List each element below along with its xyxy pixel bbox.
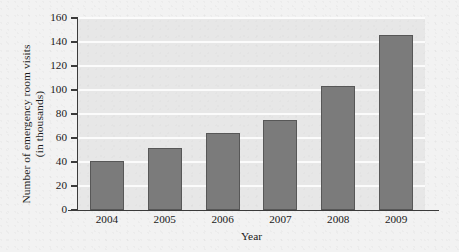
x-axis-tick-label: 2009	[367, 214, 425, 225]
gridline	[78, 185, 425, 186]
x-axis-tick-label: 2007	[251, 214, 309, 225]
y-axis-tick-label: 20	[27, 180, 67, 191]
x-axis-tick-label: 2006	[194, 214, 252, 225]
y-axis-tick-label: 100	[27, 84, 67, 95]
gridline	[78, 113, 425, 114]
y-axis-tick-label: 120	[27, 60, 67, 71]
gridline	[78, 89, 425, 90]
y-axis-tick-label: 0	[27, 204, 67, 215]
gridline	[78, 17, 425, 18]
y-axis-tick-label: 40	[27, 156, 67, 167]
y-axis-tick-label: 140	[27, 36, 67, 47]
y-axis-tick-label: 60	[27, 132, 67, 143]
x-axis-tick-label: 2005	[136, 214, 194, 225]
bar	[90, 161, 124, 210]
x-axis-line	[68, 210, 439, 211]
bar	[379, 35, 413, 210]
y-axis-tick-label: 160	[27, 12, 67, 23]
y-axis-title-line2: (in thousands)	[33, 91, 46, 157]
bar	[206, 133, 240, 210]
gridline	[78, 137, 425, 138]
x-axis-title: Year	[78, 231, 425, 242]
y-axis-tick-label: 80	[27, 108, 67, 119]
bar	[321, 86, 355, 210]
bar	[263, 120, 297, 210]
gridline	[78, 41, 425, 42]
gridline	[78, 65, 425, 66]
y-axis-line	[77, 17, 78, 211]
bar-chart-figure: Number of emergency room visits (in thou…	[0, 0, 459, 252]
bar	[148, 148, 182, 210]
gridline	[78, 161, 425, 162]
x-axis-tick-label: 2008	[309, 214, 367, 225]
x-axis-tick-label: 2004	[78, 214, 136, 225]
